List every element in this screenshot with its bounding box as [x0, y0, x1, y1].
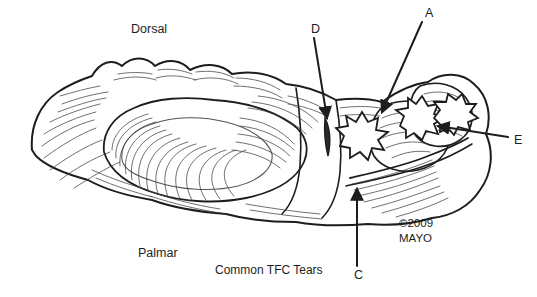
orientation-label-dorsal: Dorsal	[131, 22, 167, 36]
callout-label-e: E	[514, 133, 522, 147]
copyright-line-2: MAYO	[399, 232, 432, 245]
figure-caption: Common TFC Tears	[215, 264, 323, 277]
callout-label-d: D	[311, 22, 320, 36]
callout-label-c: C	[354, 268, 363, 282]
figure-root: Dorsal Palmar Common TFC Tears ©2009 MAY…	[0, 0, 537, 297]
tfcc-anatomy-illustration	[0, 0, 537, 297]
orientation-label-palmar: Palmar	[138, 246, 178, 260]
callout-label-a: A	[425, 6, 433, 20]
copyright-line-1: ©2009	[399, 217, 433, 230]
